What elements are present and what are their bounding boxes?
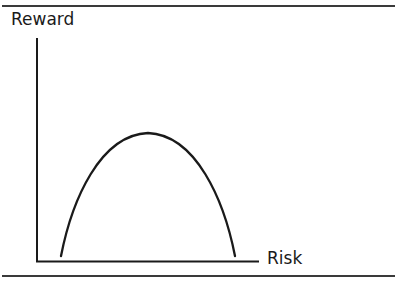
bottom-rule <box>2 275 395 277</box>
risk-reward-diagram <box>0 0 397 284</box>
reward-curve <box>61 133 235 256</box>
